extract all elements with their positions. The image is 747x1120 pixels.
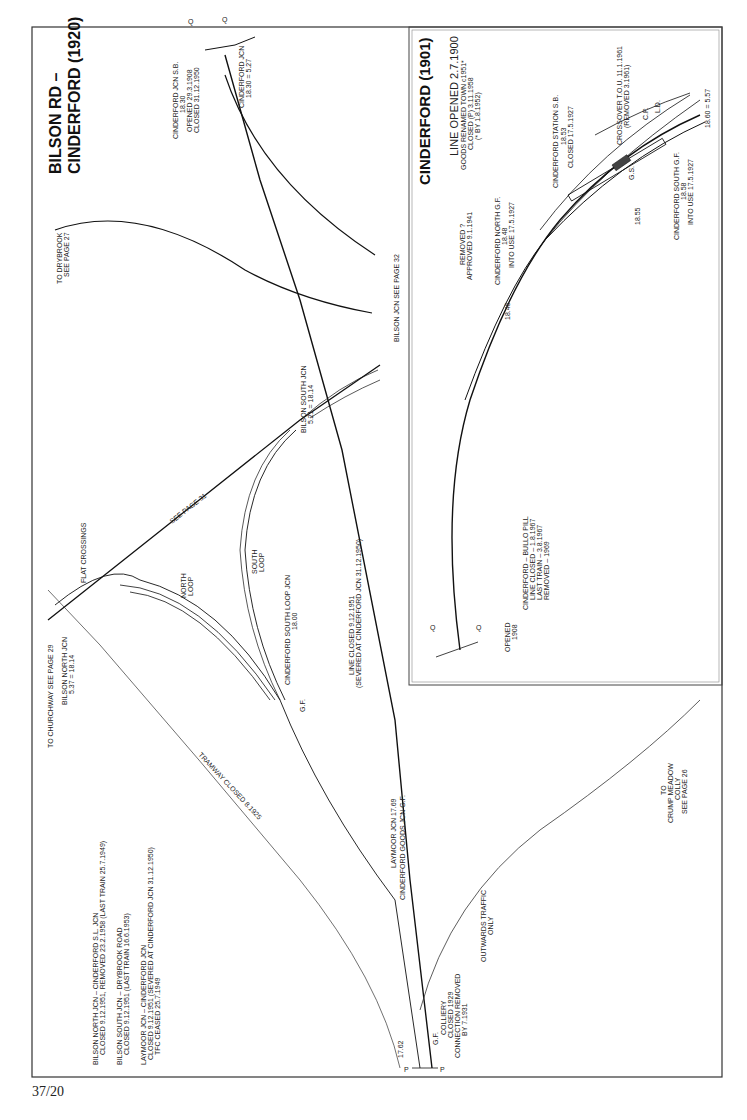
svg-text:ONLY: ONLY: [487, 916, 494, 935]
svg-text:LAST TRAIN – 3.8.1967: LAST TRAIN – 3.8.1967: [536, 525, 543, 600]
svg-text:COLLIERY: COLLIERY: [440, 1000, 447, 1035]
svg-text:G.S.: G.S.: [628, 166, 635, 180]
north-loop-track: [55, 574, 280, 700]
inset-title: CINDERFORD (1901): [416, 37, 433, 185]
svg-text:TO CHURCHWAY SEE PAGE 29: TO CHURCHWAY SEE PAGE 29: [47, 644, 54, 748]
svg-text:CINDERFORD JCN: CINDERFORD JCN: [238, 46, 245, 108]
svg-text:L.D.: L.D.: [654, 100, 661, 113]
svg-text:18.00: 18.00: [291, 612, 298, 630]
svg-text:OPENED: OPENED: [504, 622, 511, 652]
svg-text:LINE CLOSED 9.12.1951: LINE CLOSED 9.12.1951: [348, 596, 355, 675]
svg-text:COLLY: COLLY: [674, 777, 681, 800]
svg-text:P: P: [404, 1066, 409, 1073]
svg-text:FLAT CROSSINGS: FLAT CROSSINGS: [80, 522, 87, 583]
svg-text:CLOSED 9.12.1951, REMOVED 23.2: CLOSED 9.12.1951, REMOVED 23.2.1958 (LAS…: [99, 841, 107, 1055]
svg-text:BILSON SOUTH JCN: BILSON SOUTH JCN: [300, 365, 307, 433]
svg-text:CONNECTION REMOVED: CONNECTION REMOVED: [454, 974, 461, 1058]
svg-text:(SEVERED AT CINDERFORD JCN 31.: (SEVERED AT CINDERFORD JCN 31.12.1950): [355, 539, 363, 688]
svg-text:LINE CLOSED – 1.8.1967: LINE CLOSED – 1.8.1967: [529, 519, 536, 600]
svg-text:CINDERFORD SOUTH G.F.: CINDERFORD SOUTH G.F.: [673, 152, 680, 240]
svg-text:CINDERFORD STATION S.B.: CINDERFORD STATION S.B.: [552, 95, 559, 188]
inset-main-track: [452, 115, 700, 650]
svg-text:LOOP: LOOP: [187, 576, 194, 596]
svg-text:Q: Q: [430, 624, 436, 632]
svg-text:18.30: 18.30: [179, 95, 186, 113]
svg-text:OUTWARDS TRAFFIC: OUTWARDS TRAFFIC: [480, 890, 487, 962]
svg-text:BILSON JCN SEE PAGE 32: BILSON JCN SEE PAGE 32: [393, 254, 400, 342]
svg-text:CINDERFORD SOUTH LOOP JCN: CINDERFORD SOUTH LOOP JCN: [284, 575, 291, 685]
inset-tracks: [436, 93, 705, 657]
svg-text:G.F.: G.F.: [432, 1032, 439, 1045]
svg-text:CRUMP MEADOW: CRUMP MEADOW: [667, 763, 674, 823]
svg-text:INTO USE 17.5.1927: INTO USE 17.5.1927: [508, 202, 515, 268]
svg-text:SEE PAGE 26: SEE PAGE 26: [681, 769, 688, 814]
railway-track-map: BILSON RD – CINDERFORD (1920) CINDERFORD…: [0, 0, 747, 1120]
svg-text:TFC CEASED 25.7.1949: TFC CEASED 25.7.1949: [154, 977, 161, 1055]
svg-text:BILSON NORTH JCN: BILSON NORTH JCN: [61, 637, 68, 705]
svg-text:BILSON SOUTH JCN – DRYBROOK RO: BILSON SOUTH JCN – DRYBROOK ROAD: [116, 927, 123, 1065]
svg-text:BY 7.1931: BY 7.1931: [461, 1003, 468, 1036]
svg-text:C.P.: C.P.: [642, 107, 649, 120]
svg-text:18.53: 18.53: [560, 127, 567, 145]
svg-text:REMOVED – 1969: REMOVED – 1969: [543, 541, 550, 600]
cinderford-branch-track: [225, 75, 375, 255]
svg-text:CLOSED 1929: CLOSED 1929: [447, 992, 454, 1038]
svg-text:5.21 = 18.14: 5.21 = 18.14: [307, 385, 314, 424]
map-title-line2: CINDERFORD (1920): [66, 17, 83, 174]
svg-text:LAYMOOR JCN – CINDERFORD JCN: LAYMOOR JCN – CINDERFORD JCN: [140, 945, 147, 1065]
svg-text:18.48: 18.48: [501, 227, 508, 245]
svg-text:1908: 1908: [511, 624, 518, 640]
svg-text:18.55: 18.55: [634, 207, 641, 225]
svg-text:P: P: [440, 1066, 445, 1073]
crump-meadow-track: [420, 700, 700, 1010]
map-frame: [32, 27, 722, 1077]
svg-text:NORTH: NORTH: [180, 573, 187, 598]
svg-text:TRAMWAY CLOSED 8.1925: TRAMWAY CLOSED 8.1925: [197, 751, 263, 821]
svg-text:BILSON NORTH JCN – CINDERFORD: BILSON NORTH JCN – CINDERFORD S.L. JCN: [92, 913, 99, 1065]
svg-text:CINDERFORD – BULLO PILL: CINDERFORD – BULLO PILL: [522, 516, 529, 610]
page-number: 37/20: [32, 1084, 64, 1100]
page31-line-track: [48, 365, 380, 620]
svg-text:OPENED 29.3.1908: OPENED 29.3.1908: [186, 69, 193, 132]
svg-text:CROSSOVER T.O.U. 11.1.1961: CROSSOVER T.O.U. 11.1.1961: [616, 46, 623, 145]
svg-text:(REMOVED 3.1961): (REMOVED 3.1961): [623, 65, 631, 128]
svg-text:Q: Q: [222, 16, 228, 24]
svg-text:SEE PAGE 27: SEE PAGE 27: [63, 232, 70, 277]
svg-text:CLOSED 9.12.1951 (LAST TRAIN 1: CLOSED 9.12.1951 (LAST TRAIN 16.6.1953): [123, 913, 131, 1055]
svg-text:APPROVED 9.1.1941: APPROVED 9.1.1941: [466, 212, 473, 280]
svg-text:18.30 = 5.27: 18.30 = 5.27: [245, 59, 252, 98]
svg-text:CINDERFORD NORTH G.F.: CINDERFORD NORTH G.F.: [494, 197, 501, 285]
map-title-line1: BILSON RD –: [47, 73, 64, 174]
svg-text:LOOP: LOOP: [258, 552, 265, 572]
svg-text:INTO USE 17.5.1927: INTO USE 17.5.1927: [687, 159, 694, 225]
svg-text:LINE OPENED 2.7.1900: LINE OPENED 2.7.1900: [448, 36, 460, 156]
svg-text:18.60 = 5.57: 18.60 = 5.57: [704, 89, 711, 128]
svg-text:LAYMOOR JCN 17.69: LAYMOOR JCN 17.69: [390, 798, 397, 868]
svg-text:TO: TO: [660, 785, 667, 795]
svg-text:18.46: 18.46: [504, 302, 511, 320]
svg-text:CINDERFORD JCN S.B.: CINDERFORD JCN S.B.: [172, 62, 179, 139]
drybrook-track: [55, 221, 372, 313]
svg-text:5.37 = 18.14: 5.37 = 18.14: [68, 655, 75, 694]
svg-text:GOODS RENAMED TOWN c1951*: GOODS RENAMED TOWN c1951*: [460, 60, 467, 170]
svg-text:Q: Q: [188, 18, 194, 26]
svg-text:CINDERFORD GOODS JCN G.F.: CINDERFORD GOODS JCN G.F.: [399, 795, 406, 900]
svg-text:CLOSED 17.5.1927: CLOSED 17.5.1927: [567, 106, 574, 168]
svg-text:18.58: 18.58: [680, 182, 687, 200]
svg-text:17.62: 17.62: [397, 1040, 404, 1058]
svg-text:SOUTH: SOUTH: [251, 550, 258, 575]
svg-text:CLOSED 31.12.1950: CLOSED 31.12.1950: [193, 67, 200, 133]
svg-text:(* BY 1.8.1952): (* BY 1.8.1952): [474, 92, 482, 140]
main-tracks: [48, 37, 700, 1068]
svg-text:REMOVED ?: REMOVED ?: [459, 224, 466, 265]
svg-text:TO DRYBROOK: TO DRYBROOK: [56, 232, 63, 284]
svg-text:SEE PAGE 31: SEE PAGE 31: [168, 492, 208, 525]
svg-text:G.F.: G.F.: [299, 699, 306, 712]
inset-labels: CINDERFORD (1901) LINE OPENED 2.7.1900 G…: [416, 36, 711, 652]
svg-text:Q: Q: [476, 624, 482, 632]
